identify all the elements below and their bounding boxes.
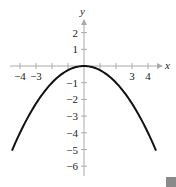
- x-tick-label: −4: [14, 70, 26, 82]
- y-tick-label: −3: [66, 110, 78, 122]
- y-tick-label: 2: [73, 27, 79, 39]
- x-axis-label: x: [164, 59, 170, 71]
- y-tick-label: −6: [66, 160, 78, 172]
- x-tick-label: 4: [145, 70, 151, 82]
- parabola-chart: −4−334 21−1−2−3−4−5−6 x y: [0, 0, 176, 187]
- y-tick-label: −2: [66, 93, 78, 105]
- y-tick-label: −5: [66, 144, 78, 156]
- end-of-figure-mark: [166, 177, 176, 187]
- y-axis-label: y: [79, 5, 85, 17]
- x-tick-label: −3: [30, 70, 42, 82]
- x-tick-label: 3: [129, 70, 135, 82]
- y-tick-label: −1: [66, 77, 78, 89]
- y-tick-label: −4: [66, 127, 78, 139]
- y-tick-label: 1: [73, 43, 79, 55]
